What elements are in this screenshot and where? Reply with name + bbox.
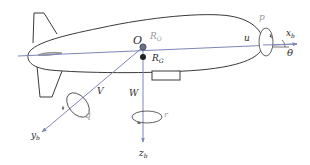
surge-velocity-label: u [244,33,250,43]
z-axis-label: zb [138,148,148,159]
airship-hull [28,15,263,73]
pitch-angle-label: θ [287,47,293,58]
gondola [152,71,180,80]
roll-rate-label: p [259,12,265,22]
origin-label: O [133,34,142,47]
upper-tail-fin [33,13,57,43]
yaw-rotation-icon [132,111,162,123]
theta-arc [282,40,285,47]
heave-velocity-label: W [129,88,139,98]
x-axis-label: xb [286,28,295,39]
sway-velocity-label: V [97,86,105,96]
airship-diagram: O RO RG u p xb θ V q yb W r zb [0,0,310,165]
y-axis-label: yb [30,130,40,141]
center-of-gravity-point [140,54,146,60]
pitch-rate-label: q [85,110,91,120]
roll-rotation-icon [259,28,273,56]
yaw-rate-label: r [164,110,169,119]
